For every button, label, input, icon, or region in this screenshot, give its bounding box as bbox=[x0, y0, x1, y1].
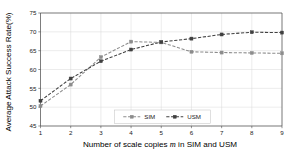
data-point-marker bbox=[220, 33, 223, 36]
x-tick-label: 8 bbox=[250, 129, 254, 136]
x-tick-label: 3 bbox=[99, 129, 103, 136]
data-point-marker bbox=[250, 51, 253, 54]
chart-figure: 45505560657075 123456789 SIMUSM Average … bbox=[0, 0, 295, 156]
data-point-marker bbox=[250, 31, 253, 34]
y-tick-label: 65 bbox=[30, 47, 37, 54]
y-tick-label: 75 bbox=[30, 9, 37, 16]
legend-label-sim: SIM bbox=[144, 113, 155, 120]
x-axis-label: Number of scale copies m in SIM and USM bbox=[83, 140, 237, 149]
data-point-marker bbox=[280, 52, 283, 55]
legend-marker-sim bbox=[130, 115, 133, 118]
data-point-marker bbox=[190, 37, 193, 40]
x-axis-label-suffix: in SIM and USM bbox=[176, 140, 237, 149]
data-point-marker bbox=[39, 99, 42, 102]
data-point-marker bbox=[220, 51, 223, 54]
y-tick-label: 50 bbox=[30, 103, 37, 110]
data-point-marker bbox=[69, 83, 72, 86]
line-chart: 45505560657075 123456789 SIMUSM Average … bbox=[0, 0, 295, 156]
data-point-marker bbox=[160, 40, 163, 43]
y-tick-label: 60 bbox=[30, 66, 37, 73]
legend-marker-usm bbox=[173, 115, 176, 118]
y-tick-label: 70 bbox=[30, 28, 37, 35]
y-axis-label: Average Attack Success Rate(%) bbox=[4, 12, 13, 131]
x-tick-label: 7 bbox=[220, 129, 224, 136]
data-point-marker bbox=[99, 56, 102, 59]
x-axis-label-prefix: Number of scale copies bbox=[83, 140, 170, 149]
y-tick-label: 55 bbox=[30, 85, 37, 92]
x-tick-label: 6 bbox=[190, 129, 194, 136]
data-point-marker bbox=[39, 104, 42, 107]
data-point-marker bbox=[280, 31, 283, 34]
data-point-marker bbox=[130, 40, 133, 43]
x-tick-label: 4 bbox=[129, 129, 133, 136]
data-point-marker bbox=[190, 50, 193, 53]
x-tick-label: 5 bbox=[160, 129, 164, 136]
y-tick-label: 45 bbox=[30, 122, 37, 129]
x-tick-label: 1 bbox=[39, 129, 43, 136]
x-tick-label: 2 bbox=[69, 129, 73, 136]
chart-legend[interactable]: SIMUSM bbox=[114, 110, 210, 124]
data-point-marker bbox=[99, 60, 102, 63]
data-point-marker bbox=[69, 77, 72, 80]
data-point-marker bbox=[130, 48, 133, 51]
legend-label-usm: USM bbox=[187, 113, 201, 120]
x-tick-label: 9 bbox=[280, 129, 284, 136]
